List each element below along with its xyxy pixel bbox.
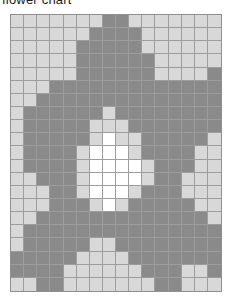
grid-cell-petal [37,265,50,278]
grid-cell-petal [77,199,90,212]
grid-cell-petal [155,238,168,251]
grid-cell-petal [90,68,103,81]
grid-cell-background [11,146,24,159]
grid-cell-petal [208,120,221,133]
grid-cell-center [90,146,103,159]
grid-cell-petal [182,81,195,94]
grid-cell-background [24,94,37,107]
grid-cell-background [195,278,208,291]
grid-cell-background [129,15,142,28]
grid-cell-petal [37,225,50,238]
grid-cell-background [195,173,208,186]
grid-cell-petal [90,81,103,94]
grid-cell-petal [142,107,155,120]
grid-cell-background [182,278,195,291]
grid-cell-background [11,186,24,199]
grid-cell-background [208,212,221,225]
grid-cell-petal [64,94,77,107]
grid-cell-petal [142,199,155,212]
grid-cell-petal [142,225,155,238]
grid-cell-petal [142,54,155,67]
grid-cell-petal [50,186,63,199]
grid-cell-background [77,278,90,291]
grid-cell-center [90,160,103,173]
grid-cell-petal [103,15,116,28]
grid-cell-petal [50,133,63,146]
grid-cell-petal [116,68,129,81]
grid-cell-petal [24,225,37,238]
grid-cell-petal [182,146,195,159]
grid-cell-petal [64,120,77,133]
grid-cell-background [24,68,37,81]
grid-cell-petal [37,238,50,251]
grid-cell-petal [90,107,103,120]
grid-cell-petal [129,28,142,41]
grid-cell-center [90,186,103,199]
grid-cell-center [103,146,116,159]
grid-cell-petal [208,265,221,278]
grid-cell-background [103,120,116,133]
grid-cell-background [50,41,63,54]
grid-cell-petal [77,68,90,81]
grid-cell-petal [90,212,103,225]
grid-cell-background [24,41,37,54]
grid-cell-background [50,54,63,67]
grid-cell-petal [195,120,208,133]
grid-cell-petal [90,41,103,54]
grid-cell-petal [208,225,221,238]
grid-cell-background [155,68,168,81]
grid-cell-background [116,252,129,265]
grid-cell-background [129,146,142,159]
grid-cell-background [169,28,182,41]
grid-cell-petal [50,173,63,186]
grid-cell-background [195,160,208,173]
page-title: flower chart [2,0,72,6]
grid-cell-petal [116,94,129,107]
grid-cell-petal [169,120,182,133]
grid-cell-petal [37,133,50,146]
grid-cell-background [195,265,208,278]
grid-cell-background [116,120,129,133]
grid-cell-petal [64,160,77,173]
grid-cell-petal [169,133,182,146]
grid-cell-background [103,265,116,278]
grid-cell-background [103,252,116,265]
grid-cell-petal [24,120,37,133]
grid-cell-background [208,15,221,28]
grid-cell-background [90,265,103,278]
grid-cell-petal [24,146,37,159]
grid-cell-petal [129,225,142,238]
grid-cell-background [142,278,155,291]
grid-cell-background [90,252,103,265]
grid-cell-petal [24,160,37,173]
grid-cell-background [24,173,37,186]
grid-cell-background [77,186,90,199]
grid-cell-background [208,186,221,199]
grid-cell-petal [169,186,182,199]
grid-cell-background [195,41,208,54]
grid-cell-center [103,160,116,173]
grid-cell-petal [169,212,182,225]
grid-cell-petal [90,28,103,41]
grid-cell-background [169,15,182,28]
grid-cell-petal [50,160,63,173]
grid-cell-petal [77,238,90,251]
grid-cell-petal [64,252,77,265]
grid-cell-petal [64,133,77,146]
grid-cell-petal [64,173,77,186]
grid-cell-petal [24,265,37,278]
grid-cell-background [208,28,221,41]
grid-cell-petal [37,212,50,225]
grid-cell-background [195,54,208,67]
grid-cell-petal [50,278,63,291]
grid-cell-petal [103,68,116,81]
grid-cell-background [77,160,90,173]
grid-cell-petal [50,225,63,238]
grid-cell-petal [64,146,77,159]
grid-cell-petal [142,146,155,159]
grid-cell-background [103,238,116,251]
grid-cell-background [182,186,195,199]
grid-cell-background [24,199,37,212]
grid-cell-petal [155,212,168,225]
grid-cell-petal [195,94,208,107]
